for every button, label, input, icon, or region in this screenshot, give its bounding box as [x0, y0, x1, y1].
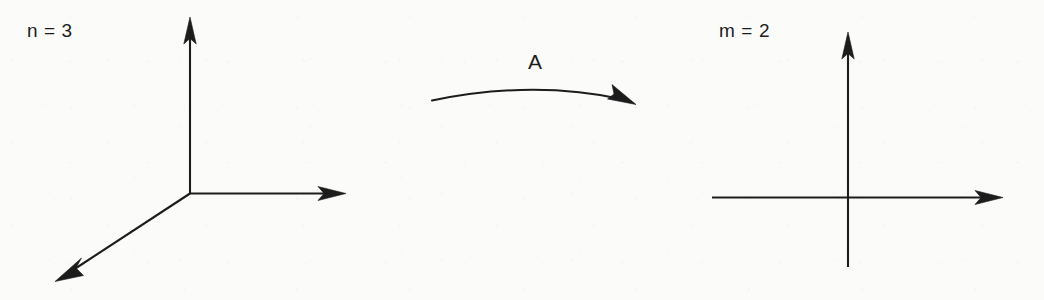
linear-map-diagram — [0, 0, 1044, 300]
map-arrow-group — [432, 85, 636, 105]
codomain-axes-group — [712, 32, 1003, 267]
domain-depth-axis-line — [70, 194, 190, 273]
codomain-dimension-label: m = 2 — [719, 21, 770, 40]
domain-depth-axis-arrowhead — [55, 258, 84, 282]
map-arrow-arrowhead — [608, 85, 637, 105]
domain-dimension-label: n = 3 — [27, 21, 73, 40]
map-arrow-label: A — [528, 51, 542, 72]
domain-axes-group — [55, 17, 346, 282]
figure-canvas: n = 3 A m = 2 — [0, 0, 1044, 300]
map-arrow-arc — [432, 90, 624, 101]
